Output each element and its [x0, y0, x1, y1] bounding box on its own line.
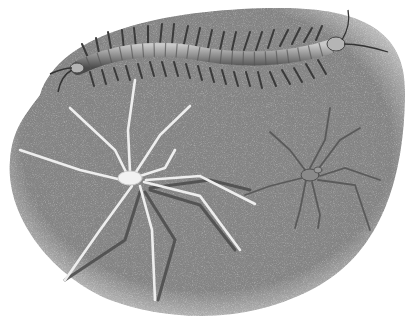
- illustration: [0, 0, 410, 328]
